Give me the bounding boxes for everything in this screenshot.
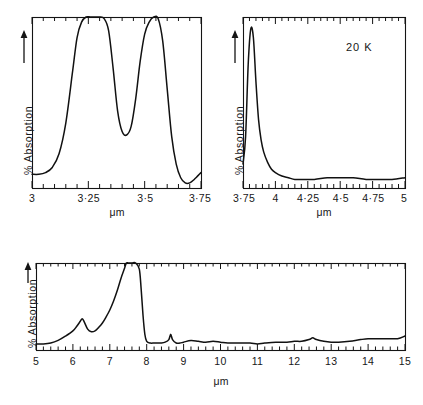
xtick-label-tr-3: 4·5 [333,192,349,204]
xtick-label-tr-0: 3·75 [233,192,255,204]
panel-top-right-plot [243,17,406,189]
x-axis-title-bottom: μm [213,375,228,387]
xtick-label-tr-5: 5 [401,192,407,204]
y-axis-arrow-top-right [229,30,241,64]
y-axis-arrow-top-left [18,30,30,64]
panel-top-left [32,17,202,189]
xtick-label-bt-1: 6 [70,355,76,367]
panel-top-left-plot [32,17,202,189]
xtick-label-bt-5: 10 [214,355,226,367]
xtick-label-tr-4: 4·75 [362,192,384,204]
xtick-label-tl-0: 3 [29,192,35,204]
xtick-label-bt-7: 12 [288,355,300,367]
absorption-curve-bottom [36,263,405,344]
xtick-label-tl-2: 3·5 [137,192,153,204]
absorption-curve-top-left [32,16,201,183]
x-axis-title-top-right: μm [316,206,331,218]
xtick-label-bt-2: 7 [107,355,113,367]
panel-top-right [243,17,406,189]
xtick-label-tr-1: 4 [273,192,279,204]
xtick-label-bt-8: 13 [325,355,337,367]
xtick-label-bt-10: 15 [399,355,411,367]
y-axis-label-top-right: % Absorption [233,106,245,175]
absorption-spectra-figure: % Absorption 3 3·25 3·5 3·75 μm % Absorp… [0,0,423,405]
panel-bottom [36,263,406,351]
temperature-annotation: 20 K [346,41,373,53]
panel-bottom-plot [36,263,406,351]
xtick-label-tl-1: 3·25 [78,192,100,204]
xtick-label-bt-6: 11 [252,355,264,367]
xtick-label-tr-2: 4·25 [297,192,319,204]
xtick-label-tl-3: 3·75 [189,192,211,204]
x-axis-ticks-bottom [36,263,405,350]
absorption-curve-top-right [243,27,405,179]
xtick-label-bt-4: 9 [181,355,187,367]
y-axis-label-top-left: % Absorption [22,106,34,175]
xtick-label-bt-3: 8 [144,355,150,367]
xtick-label-bt-0: 5 [33,355,39,367]
xtick-label-bt-9: 14 [362,355,374,367]
y-axis-label-bottom: % Absorption [26,279,38,348]
x-axis-title-top-left: μm [109,206,124,218]
